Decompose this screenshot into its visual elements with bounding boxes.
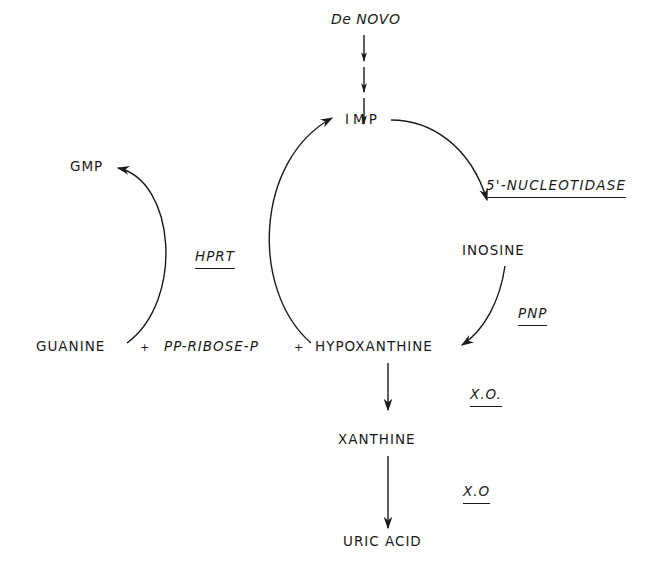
pathway-arrows (0, 0, 671, 577)
node-hypoxanthine: HYPOXANTHINE (315, 340, 433, 354)
plus-sign-2: + (294, 342, 303, 353)
node-gmp: GMP (70, 160, 103, 174)
arrow-imp-to-inosine (391, 120, 487, 200)
enzyme-pnp: PNP (518, 307, 547, 326)
node-uric-acid: URIC ACID (343, 535, 422, 549)
node-xanthine: XANTHINE (338, 433, 416, 447)
enzyme-xanthine-oxidase-2: X.O (463, 485, 490, 504)
enzyme-hprt: HPRT (195, 250, 235, 269)
node-guanine: GUANINE (36, 340, 105, 354)
node-imp: IMP (345, 113, 381, 127)
plus-sign-1: + (140, 342, 149, 353)
enzyme-5-nucleotidase: 5'-NUCLEOTIDASE (486, 179, 626, 198)
arrow-inosine-to-hypoxanthine (462, 266, 505, 345)
enzyme-xanthine-oxidase-1: X.O. (470, 388, 502, 407)
pathway-diagram: De NOVO IMP INOSINE HYPOXANTHINE XANTHIN… (0, 0, 671, 577)
node-inosine: INOSINE (462, 244, 525, 258)
arrow-hypoxanthine-to-imp (269, 118, 332, 343)
node-de-novo: De NOVO (331, 12, 400, 26)
node-pp-ribose-p: PP-RIBOSE-P (164, 340, 259, 354)
arrow-guanine-to-gmp (118, 168, 166, 343)
